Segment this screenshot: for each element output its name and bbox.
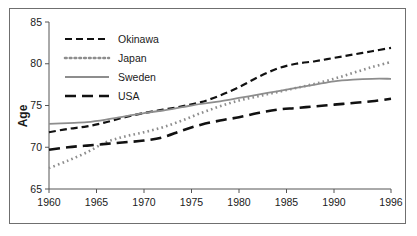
x-tick-label: 1965	[85, 196, 109, 208]
x-tick-label: 1980	[227, 196, 251, 208]
chart-frame: Age 6570758085 1960196519701975198019851…	[9, 8, 406, 224]
series-line-usa	[49, 99, 391, 150]
x-tick-label: 1990	[322, 196, 346, 208]
legend-label-sweden: Sweden	[118, 71, 156, 83]
y-tick-label: 65	[30, 183, 42, 195]
x-tick-label: 1975	[180, 196, 204, 208]
x-axis-tick-labels: 19601965197019751980198519901996	[37, 196, 403, 208]
series-line-japan	[49, 62, 391, 168]
x-tick-label: 1996	[379, 196, 403, 208]
legend-label-usa: USA	[118, 90, 140, 102]
y-axis-title: Age	[16, 104, 30, 127]
y-tick-label: 80	[30, 57, 42, 69]
x-tick-label: 1985	[275, 196, 299, 208]
series-line-sweden	[49, 79, 391, 124]
series-lines	[49, 48, 391, 168]
x-tick-label: 1960	[37, 196, 61, 208]
chart-legend: OkinawaJapanSwedenUSA	[65, 33, 159, 102]
life-expectancy-line-chart: Age 6570758085 1960196519701975198019851…	[10, 9, 405, 223]
y-tick-label: 85	[30, 16, 42, 28]
legend-label-japan: Japan	[118, 52, 147, 64]
y-axis-ticks	[45, 22, 49, 189]
x-axis-ticks	[49, 189, 391, 193]
y-tick-label: 75	[30, 99, 42, 111]
y-tick-label: 70	[30, 141, 42, 153]
legend-label-okinawa: Okinawa	[118, 33, 159, 45]
x-tick-label: 1970	[132, 196, 156, 208]
y-axis-tick-labels: 6570758085	[30, 16, 42, 195]
